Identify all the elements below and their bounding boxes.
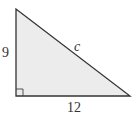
hypotenuse-label: c [74, 39, 81, 54]
right-triangle-diagram: 9 12 c [0, 0, 138, 119]
horizontal-leg-label: 12 [67, 100, 81, 115]
triangle-shape [16, 9, 130, 96]
vertical-leg-label: 9 [2, 45, 9, 60]
